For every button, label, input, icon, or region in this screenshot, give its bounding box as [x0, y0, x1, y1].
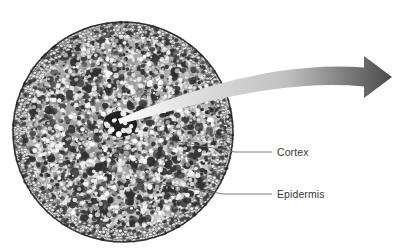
callout-label-epidermis: Epidermis: [277, 189, 325, 200]
figure-container: Cortex Epidermis: [0, 0, 404, 250]
stem-cross-section-image: [0, 0, 404, 250]
callout-label-cortex: Cortex: [277, 147, 309, 158]
specimen-body: [12, 21, 234, 242]
